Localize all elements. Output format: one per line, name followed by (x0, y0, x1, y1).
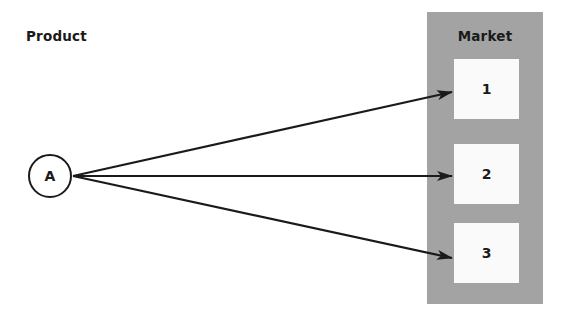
edge-a-to-3 (73, 176, 452, 258)
edges (0, 0, 561, 319)
edge-a-to-1 (73, 92, 452, 176)
product-node-a: A (28, 154, 72, 198)
